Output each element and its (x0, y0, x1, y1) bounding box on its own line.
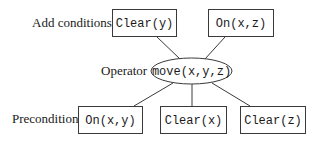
operator-label: Operator (101, 63, 148, 78)
add-condition-on-x-z: On(x,z) (209, 10, 274, 37)
precondition-clear-x: Clear(x) (161, 107, 227, 134)
operator-node: move(x,y,z) (151, 58, 232, 84)
precondition-clear-z: Clear(z) (241, 107, 306, 134)
precondition-on-x-y: On(x,y) (79, 107, 143, 134)
edge-on-x-z-to-operator (205, 37, 225, 59)
add-condition-text: On(x,z) (216, 17, 266, 31)
precondition-label: Precondition (12, 111, 79, 126)
add-condition-clear-y: Clear(y) (113, 10, 177, 37)
add-conditions-label: Add conditions (32, 15, 112, 30)
edge-operator-to-on-x-y (134, 83, 173, 106)
operator-text: move(x,y,z) (152, 65, 231, 79)
edge-operator-to-clear-z (212, 83, 250, 106)
add-condition-text: Clear(y) (116, 17, 174, 31)
edge-clear-y-to-operator (157, 37, 180, 59)
precondition-text: Clear(x) (165, 114, 223, 128)
precondition-text: On(x,y) (85, 114, 135, 128)
precondition-text: Clear(z) (244, 114, 302, 128)
operator-diagram: Add conditions Operator Precondition Cle… (0, 0, 317, 144)
